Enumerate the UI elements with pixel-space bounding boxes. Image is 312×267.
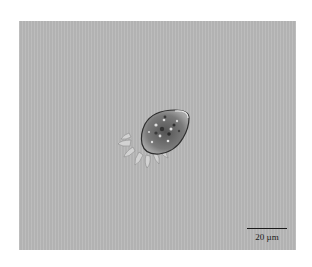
scale-bar-label: 20 µm <box>247 232 287 242</box>
amoeba-cell <box>19 21 296 250</box>
micrograph-panel: 20 µm <box>19 21 296 250</box>
scale-bar <box>247 228 287 229</box>
